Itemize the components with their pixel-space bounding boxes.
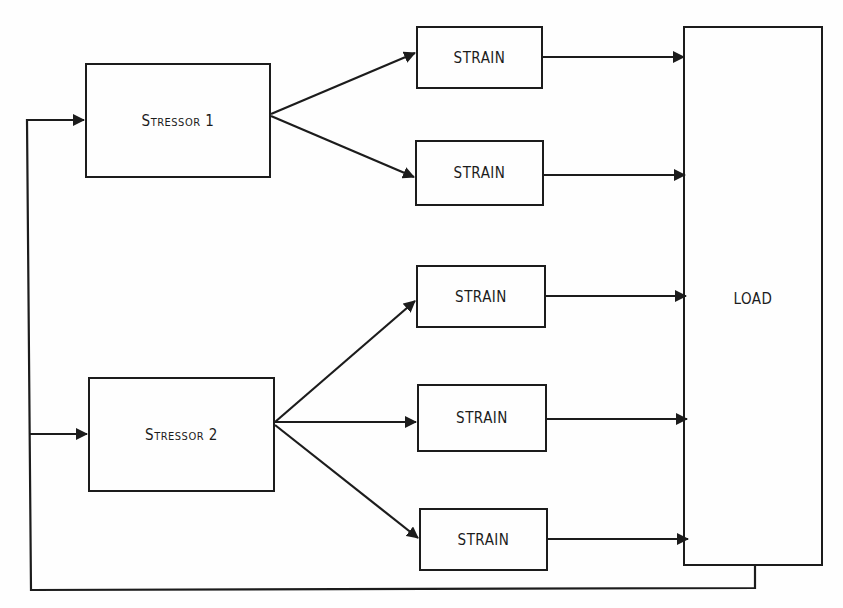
- strain-label: STRAIN: [454, 49, 506, 67]
- strain-label: STRAIN: [454, 164, 506, 182]
- strain-label: STRAIN: [455, 288, 507, 306]
- strain-box-1: STRAIN: [416, 26, 543, 89]
- stressor-1-box: Stressor 1: [85, 63, 271, 178]
- load-box: LOAD: [683, 26, 823, 566]
- arrow-stressor2-strain5: [275, 425, 418, 538]
- arrow-stressor1-strain1: [271, 53, 415, 114]
- strain-box-2: STRAIN: [415, 140, 544, 206]
- feedback-loop-line: [27, 120, 755, 590]
- strain-box-4: STRAIN: [417, 384, 547, 452]
- strain-box-3: STRAIN: [416, 265, 546, 328]
- stressor-2-box: Stressor 2: [88, 377, 275, 492]
- strain-label: STRAIN: [456, 409, 508, 427]
- strain-label: STRAIN: [458, 531, 510, 549]
- stressor-2-label: Stressor 2: [145, 426, 218, 444]
- arrow-stressor1-strain2: [271, 116, 414, 177]
- arrow-stressor2-strain3: [275, 301, 415, 422]
- strain-box-5: STRAIN: [419, 508, 548, 571]
- load-label: LOAD: [734, 290, 773, 308]
- stressor-1-label: Stressor 1: [142, 112, 215, 130]
- stress-strain-load-diagram: Stressor 1 Stressor 2 STRAIN STRAIN STRA…: [0, 0, 843, 608]
